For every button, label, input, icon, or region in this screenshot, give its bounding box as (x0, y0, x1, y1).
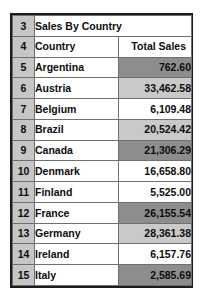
row-header-5[interactable]: 5 (13, 57, 35, 78)
table-row: 8Brazil20,524.42 (13, 119, 192, 140)
cell-country[interactable]: Canada (35, 140, 119, 161)
cell-total-sales[interactable]: 762.60 (119, 57, 192, 78)
cell-total-sales[interactable]: 21,306.29 (119, 140, 192, 161)
cell-total-sales[interactable]: 6,157.76 (119, 244, 192, 265)
table-row: 6Austria33,462.58 (13, 78, 192, 99)
row-header-15[interactable]: 15 (13, 265, 35, 286)
cell-total-sales[interactable]: 6,109.48 (119, 99, 192, 120)
grid-body: 3 Sales By Country 4 Country Total Sales… (13, 16, 192, 286)
column-header-total-sales[interactable]: Total Sales (119, 36, 192, 57)
cell-country[interactable]: Italy (35, 265, 119, 286)
row-header-8[interactable]: 8 (13, 119, 35, 140)
table-row: 15Italy2,585.69 (13, 265, 192, 286)
cell-country[interactable]: Germany (35, 223, 119, 244)
column-header-row: 4 Country Total Sales (13, 36, 192, 57)
sales-by-country-grid: 3 Sales By Country 4 Country Total Sales… (12, 15, 192, 286)
cell-country[interactable]: France (35, 202, 119, 223)
table-row: 14Ireland6,157.76 (13, 244, 192, 265)
spreadsheet-table[interactable]: 3 Sales By Country 4 Country Total Sales… (10, 13, 193, 288)
cell-total-sales[interactable]: 2,585.69 (119, 265, 192, 286)
cell-total-sales[interactable]: 26,155.54 (119, 202, 192, 223)
cell-country[interactable]: Austria (35, 78, 119, 99)
cell-country[interactable]: Argentina (35, 57, 119, 78)
table-row: 10Denmark16,658.80 (13, 161, 192, 182)
table-row: 7Belgium6,109.48 (13, 99, 192, 120)
table-row: 5Argentina762.60 (13, 57, 192, 78)
cell-country[interactable]: Denmark (35, 161, 119, 182)
row-header-11[interactable]: 11 (13, 182, 35, 203)
row-header-6[interactable]: 6 (13, 78, 35, 99)
row-header-4[interactable]: 4 (13, 36, 35, 57)
row-header-9[interactable]: 9 (13, 140, 35, 161)
cell-country[interactable]: Ireland (35, 244, 119, 265)
cell-country[interactable]: Belgium (35, 99, 119, 120)
table-row: 9Canada21,306.29 (13, 140, 192, 161)
cell-country[interactable]: Finland (35, 182, 119, 203)
row-header-10[interactable]: 10 (13, 161, 35, 182)
title-row: 3 Sales By Country (13, 16, 192, 37)
row-header-7[interactable]: 7 (13, 99, 35, 120)
column-header-country[interactable]: Country (35, 36, 119, 57)
row-header-3[interactable]: 3 (13, 16, 35, 37)
row-header-14[interactable]: 14 (13, 244, 35, 265)
row-header-12[interactable]: 12 (13, 202, 35, 223)
report-title[interactable]: Sales By Country (35, 16, 192, 37)
cell-total-sales[interactable]: 33,462.58 (119, 78, 192, 99)
cell-total-sales[interactable]: 16,658.80 (119, 161, 192, 182)
table-row: 11Finland5,525.00 (13, 182, 192, 203)
table-row: 12France26,155.54 (13, 202, 192, 223)
cell-total-sales[interactable]: 28,361.38 (119, 223, 192, 244)
row-header-13[interactable]: 13 (13, 223, 35, 244)
cell-total-sales[interactable]: 5,525.00 (119, 182, 192, 203)
cell-total-sales[interactable]: 20,524.42 (119, 119, 192, 140)
table-row: 13Germany28,361.38 (13, 223, 192, 244)
cell-country[interactable]: Brazil (35, 119, 119, 140)
